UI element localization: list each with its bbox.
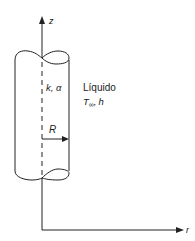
heat-transfer-coefficient-symbol: h: [98, 96, 103, 107]
fluid-conditions-label: T∞,h: [83, 96, 104, 108]
r-axis-label: r: [186, 225, 190, 235]
radius-label: R: [49, 124, 56, 135]
solid-properties-label: k, α: [46, 82, 62, 93]
radius-arrow-icon: [62, 136, 69, 142]
cylinder-diagram: z r R k, α Líquido T∞,h: [0, 0, 195, 241]
separator: ,: [94, 96, 97, 107]
fluid-name-label: Líquido: [83, 82, 116, 93]
z-axis-label: z: [48, 16, 54, 26]
r-axis-arrow-icon: [176, 227, 184, 233]
z-axis-arrow-icon: [39, 16, 45, 24]
